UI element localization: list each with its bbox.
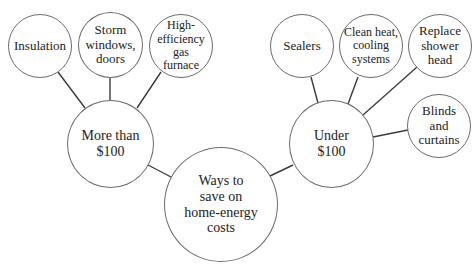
node-blinds-label: Blinds and curtains	[418, 104, 459, 148]
node-clean-heat-cooling: Clean heat, cooling systems	[339, 14, 403, 78]
node-insulation: Insulation	[8, 14, 72, 78]
mind-map-diagram: Insulation Storm windows, doors High- ef…	[0, 0, 473, 271]
link-more-insulation	[58, 72, 85, 108]
node-under-100: Under $100	[289, 100, 374, 188]
link-root-under	[270, 165, 293, 176]
node-under-label: Under $100	[314, 128, 349, 159]
node-insulation-label: Insulation	[14, 39, 66, 54]
node-clean-label: Clean heat, cooling systems	[344, 26, 398, 66]
link-under-sealers	[311, 77, 318, 103]
node-shower-label: Replace shower head	[419, 24, 461, 68]
node-sealers: Sealers	[270, 14, 334, 78]
link-more-furnace	[137, 72, 161, 108]
node-replace-shower-head: Replace shower head	[408, 14, 472, 78]
node-sealers-label: Sealers	[283, 39, 321, 54]
node-more-than-100: More than $100	[67, 100, 154, 188]
link-root-more	[148, 165, 171, 177]
link-under-clean	[348, 77, 358, 104]
node-high-efficiency-furnace: High- efficiency gas furnace	[149, 14, 213, 78]
node-more-label: More than $100	[82, 128, 140, 159]
node-root-label: Ways to save on home-energy costs	[184, 173, 258, 236]
node-storm-label: Storm windows, doors	[85, 23, 135, 67]
node-blinds-curtains: Blinds and curtains	[407, 94, 471, 158]
node-root-ways-to-save: Ways to save on home-energy costs	[164, 147, 278, 262]
link-under-blinds	[373, 130, 408, 137]
node-storm-windows-doors: Storm windows, doors	[78, 12, 143, 78]
node-furnace-label: High- efficiency gas furnace	[157, 19, 205, 73]
